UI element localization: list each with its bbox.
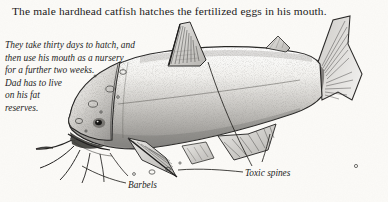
eye (93, 118, 105, 128)
caudal-fin (316, 16, 362, 102)
illustration-page: The male hardhead catfish hatches the fe… (0, 0, 388, 202)
catfish-illustration (0, 0, 388, 202)
pelvic-fin (182, 142, 214, 164)
label-barbels: Barbels (128, 180, 157, 190)
label-toxic-spines: Toxic spines (245, 168, 290, 178)
toxic-spines-leader-pectoral (178, 169, 243, 172)
dorsal-fin (168, 22, 206, 66)
